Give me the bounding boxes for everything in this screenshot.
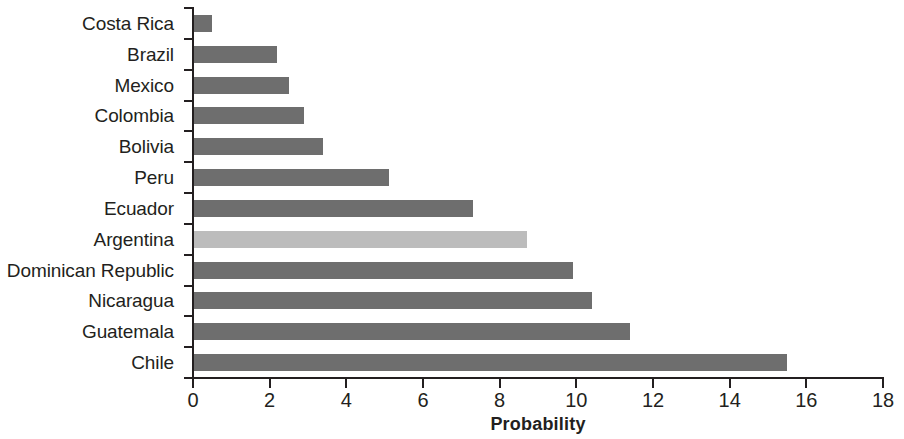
y-axis-label: Peru — [0, 162, 183, 193]
y-axis-label: Dominican Republic — [0, 255, 183, 286]
y-axis-category-labels: Costa RicaBrazilMexicoColombiaBoliviaPer… — [0, 8, 183, 378]
x-axis-tick — [729, 379, 731, 388]
x-axis-tick-label: 6 — [417, 390, 428, 410]
bar-row — [193, 193, 883, 224]
bar — [193, 138, 323, 155]
bar-row — [193, 100, 883, 131]
x-axis-tick-label: 0 — [187, 390, 198, 410]
x-axis-tick-label: 18 — [872, 390, 894, 410]
y-axis-tick — [184, 161, 193, 163]
x-axis-tick — [345, 379, 347, 388]
x-axis-tick-label: 10 — [565, 390, 587, 410]
bar — [193, 200, 473, 217]
x-axis-tick — [575, 379, 577, 388]
bar-row — [193, 8, 883, 39]
y-axis-label: Nicaragua — [0, 285, 183, 316]
x-axis-tick — [882, 379, 884, 388]
bar — [193, 292, 592, 309]
y-axis-tick — [184, 254, 193, 256]
x-axis-tick-label: 12 — [642, 390, 664, 410]
bar-series — [193, 8, 883, 378]
bar — [193, 107, 304, 124]
bar-chart: Costa RicaBrazilMexicoColombiaBoliviaPer… — [0, 0, 904, 439]
bar-row — [193, 39, 883, 70]
bar-row — [193, 224, 883, 255]
bar — [193, 15, 212, 32]
bar-row — [193, 316, 883, 347]
y-axis-label: Chile — [0, 347, 183, 378]
y-axis-tick — [184, 38, 193, 40]
y-axis-tick — [184, 7, 193, 9]
y-axis-label: Ecuador — [0, 193, 183, 224]
bar — [193, 323, 630, 340]
x-axis-tick — [422, 379, 424, 388]
bar-highlighted — [193, 231, 527, 248]
x-axis-tick — [269, 379, 271, 388]
y-axis-tick — [184, 100, 193, 102]
y-axis-label: Costa Rica — [0, 8, 183, 39]
x-axis-line — [192, 377, 884, 379]
plot-area — [193, 8, 883, 378]
y-axis-tick — [184, 223, 193, 225]
x-axis-tick-label: 14 — [719, 390, 741, 410]
y-axis-tick — [184, 69, 193, 71]
x-axis-tick — [805, 379, 807, 388]
y-axis-tick — [184, 315, 193, 317]
bar — [193, 354, 787, 371]
x-axis-tick — [192, 379, 194, 388]
y-axis-label: Argentina — [0, 224, 183, 255]
bar — [193, 262, 573, 279]
bar-row — [193, 285, 883, 316]
bar — [193, 46, 277, 63]
y-axis-label: Guatemala — [0, 316, 183, 347]
bar-row — [193, 131, 883, 162]
y-axis-tick — [184, 285, 193, 287]
bar-row — [193, 347, 883, 378]
y-axis-tick — [184, 192, 193, 194]
x-axis-tick-label: 16 — [795, 390, 817, 410]
x-axis-tick — [652, 379, 654, 388]
y-axis-label: Mexico — [0, 70, 183, 101]
x-axis-tick — [499, 379, 501, 388]
y-axis-label: Brazil — [0, 39, 183, 70]
bar-row — [193, 162, 883, 193]
y-axis-tick — [184, 346, 193, 348]
bar-row — [193, 70, 883, 101]
bar — [193, 77, 289, 94]
x-axis-tick-label: 8 — [494, 390, 505, 410]
y-axis-tick — [184, 130, 193, 132]
x-axis-tick-label: 2 — [264, 390, 275, 410]
y-axis-label: Colombia — [0, 100, 183, 131]
x-axis-title: Probability — [193, 415, 883, 433]
bar — [193, 169, 389, 186]
x-axis-tick-label: 4 — [341, 390, 352, 410]
bar-row — [193, 255, 883, 286]
y-axis-label: Bolivia — [0, 131, 183, 162]
